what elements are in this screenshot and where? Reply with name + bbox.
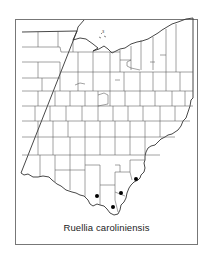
species-caption: Ruellia caroliniensis (15, 222, 198, 233)
state-outline (21, 18, 193, 215)
occurrence-dot (111, 205, 115, 209)
occurrence-dot (119, 191, 123, 195)
island-label: 3 (102, 29, 105, 34)
occurrence-dot (95, 194, 99, 198)
occurrence-dots (95, 177, 138, 209)
county-lines (22, 24, 193, 212)
occurrence-dot (134, 177, 138, 181)
ohio-county-map: 3 (0, 0, 210, 260)
